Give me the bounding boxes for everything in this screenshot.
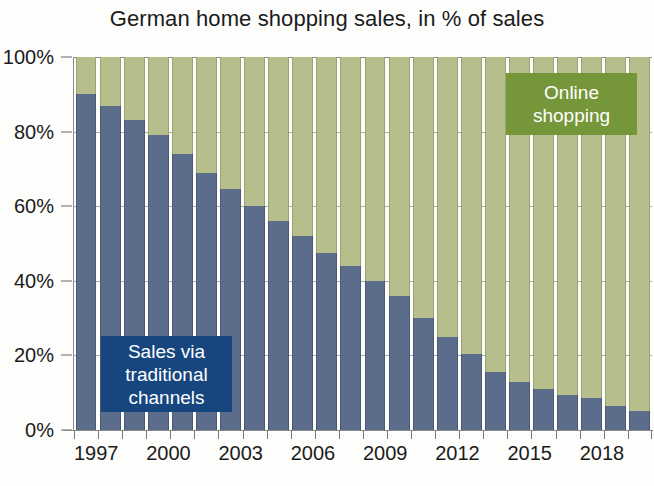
legend-traditional-channels: Sales via traditional channels (101, 336, 232, 412)
y-tick-label-80: 80% (14, 120, 54, 143)
bar-segment-online-2013[interactable] (461, 57, 482, 354)
bar-segment-online-2007[interactable] (316, 57, 337, 253)
y-tick-mark-60 (61, 206, 72, 207)
y-tick-label-60: 60% (14, 195, 54, 218)
bar-segment-online-1998[interactable] (100, 57, 121, 105)
x-axis-label-1997: 1997 (74, 442, 119, 476)
bar-segment-online-2005[interactable] (268, 57, 289, 221)
x-tick-2020 (628, 430, 652, 440)
bar-segment-online-2008[interactable] (340, 57, 361, 266)
bar-segment-traditional-2009[interactable] (365, 281, 386, 430)
x-tick-2001 (170, 430, 194, 440)
bar-segment-traditional-2007[interactable] (316, 253, 337, 430)
bar-column-2004[interactable] (244, 57, 265, 430)
x-axis-label-text: 2000 (146, 442, 191, 465)
bar-segment-online-2011[interactable] (413, 57, 434, 318)
legend-online-shopping: Online shopping (506, 73, 637, 135)
bar-segment-traditional-2005[interactable] (268, 221, 289, 430)
bar-segment-traditional-2012[interactable] (437, 337, 458, 430)
x-tick-2003 (218, 430, 242, 440)
x-axis-label-2016 (552, 442, 566, 476)
x-tick-2004 (243, 430, 267, 440)
x-axis-label-text: 2018 (580, 442, 625, 465)
legend-online-line2: shopping (533, 104, 610, 127)
x-axis-label-2012: 2012 (435, 442, 480, 476)
bar-column-2006[interactable] (292, 57, 313, 430)
bar-segment-traditional-2013[interactable] (461, 354, 482, 430)
x-axis-label-text: 2003 (219, 442, 264, 465)
bar-column-2014[interactable] (485, 57, 506, 430)
bar-segment-traditional-2018[interactable] (581, 398, 602, 430)
bar-column-2008[interactable] (340, 57, 361, 430)
bar-segment-online-2012[interactable] (437, 57, 458, 337)
bar-segment-online-2003[interactable] (220, 57, 241, 189)
bar-segment-traditional-2019[interactable] (605, 406, 626, 430)
bar-segment-online-2006[interactable] (292, 57, 313, 236)
x-tick-2010 (387, 430, 411, 440)
bar-column-2011[interactable] (413, 57, 434, 430)
x-tick-mark-2000 (146, 430, 147, 439)
x-tick-2008 (339, 430, 363, 440)
x-tick-mark-2007 (315, 430, 316, 439)
bar-segment-online-1999[interactable] (124, 57, 145, 120)
x-axis-label-text: 2006 (291, 442, 336, 465)
x-tick-2007 (315, 430, 339, 440)
x-tick-mark-2002 (194, 430, 195, 439)
x-axis-label-2007 (335, 442, 349, 476)
x-axis-ticks (74, 430, 652, 440)
bar-segment-online-1997[interactable] (76, 57, 97, 94)
bar-segment-traditional-2017[interactable] (557, 395, 578, 430)
y-tick-label-40: 40% (14, 269, 54, 292)
bar-column-2012[interactable] (437, 57, 458, 430)
bar-column-2005[interactable] (268, 57, 289, 430)
x-tick-2002 (194, 430, 218, 440)
bar-segment-online-2001[interactable] (172, 57, 193, 154)
x-axis-label-2000: 2000 (146, 442, 191, 476)
bar-segment-online-2010[interactable] (389, 57, 410, 296)
bar-segment-online-2014[interactable] (485, 57, 506, 372)
x-tick-2019 (604, 430, 628, 440)
bar-column-2013[interactable] (461, 57, 482, 430)
bar-segment-traditional-2008[interactable] (340, 266, 361, 430)
x-tick-mark-2016 (531, 430, 532, 439)
bar-segment-traditional-2015[interactable] (509, 382, 530, 430)
x-axis-label-2014 (494, 442, 508, 476)
bar-segment-online-2000[interactable] (148, 57, 169, 135)
x-axis-label-2019 (624, 442, 638, 476)
y-tick-label-100: 100% (3, 46, 54, 69)
x-axis-label-2002 (205, 442, 219, 476)
bar-segment-traditional-2016[interactable] (533, 389, 554, 430)
x-tick-mark-2003 (218, 430, 219, 439)
x-tick-mark-2015 (507, 430, 508, 439)
bar-column-1997[interactable] (76, 57, 97, 430)
bar-segment-traditional-2006[interactable] (292, 236, 313, 430)
bar-segment-traditional-1997[interactable] (76, 94, 97, 430)
y-axis: 100%80%60%40%20%0% (0, 0, 74, 486)
x-axis-label-2009: 2009 (363, 442, 408, 476)
bar-segment-traditional-2010[interactable] (389, 296, 410, 430)
bar-segment-online-2002[interactable] (196, 57, 217, 173)
bar-segment-online-2004[interactable] (244, 57, 265, 206)
x-axis-label-2004 (263, 442, 277, 476)
bar-column-2007[interactable] (316, 57, 337, 430)
x-tick-mark-2019 (604, 430, 605, 439)
x-tick-2018 (580, 430, 604, 440)
x-tick-2009 (363, 430, 387, 440)
x-tick-mark-1998 (98, 430, 99, 439)
bar-segment-traditional-2011[interactable] (413, 318, 434, 430)
x-tick-mark-2014 (483, 430, 484, 439)
x-tick-2013 (459, 430, 483, 440)
bar-segment-traditional-2004[interactable] (244, 206, 265, 430)
x-tick-mark-2001 (170, 430, 171, 439)
bar-segment-traditional-2014[interactable] (485, 372, 506, 430)
x-tick-2016 (531, 430, 555, 440)
bar-segment-online-2009[interactable] (365, 57, 386, 281)
x-tick-mark-2011 (411, 430, 412, 439)
x-tick-1998 (98, 430, 122, 440)
y-tick-mark-80 (61, 131, 72, 132)
bar-segment-traditional-2020[interactable] (629, 411, 650, 430)
bar-column-2010[interactable] (389, 57, 410, 430)
x-axis-label-1999 (132, 442, 146, 476)
x-axis-label-text: 1997 (74, 442, 119, 465)
bar-column-2009[interactable] (365, 57, 386, 430)
